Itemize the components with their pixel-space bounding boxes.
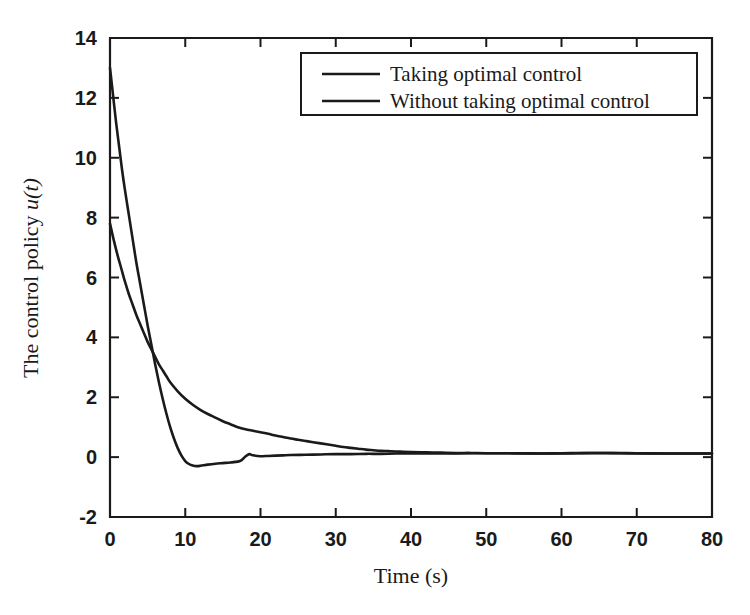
x-tick-label: 10 xyxy=(174,528,196,550)
x-tick-label: 40 xyxy=(400,528,422,550)
y-tick-label: 4 xyxy=(86,326,98,348)
y-tick-label: -2 xyxy=(79,506,97,528)
chart-figure: 01020304050607080 -202468101214 Time (s)… xyxy=(0,0,750,615)
y-axis-label-prefix: The control policy xyxy=(18,210,43,378)
x-tick-label: 20 xyxy=(249,528,271,550)
x-tick-label: 80 xyxy=(701,528,723,550)
x-tick-label: 30 xyxy=(325,528,347,550)
x-tick-label: 50 xyxy=(475,528,497,550)
y-tick-label: 2 xyxy=(86,386,97,408)
y-tick-label: 8 xyxy=(86,207,97,229)
y-tick-label: 12 xyxy=(75,87,97,109)
y-tick-label: 0 xyxy=(86,446,97,468)
legend-label-0: Taking optimal control xyxy=(390,62,582,86)
y-axis-label-math: u(t) xyxy=(18,178,43,210)
chart-legend: Taking optimal control Without taking op… xyxy=(301,53,697,115)
y-axis-label: The control policy u(t) xyxy=(18,178,43,378)
control-policy-line-chart: 01020304050607080 -202468101214 Time (s)… xyxy=(0,0,750,615)
x-tick-label: 60 xyxy=(550,528,572,550)
y-tick-label: 6 xyxy=(86,267,97,289)
x-axis-label: Time (s) xyxy=(374,563,448,588)
y-tick-label: 10 xyxy=(75,147,97,169)
x-tick-label: 70 xyxy=(626,528,648,550)
y-tick-label: 14 xyxy=(75,27,98,49)
legend-label-1: Without taking optimal control xyxy=(390,89,650,113)
x-tick-label: 0 xyxy=(104,528,115,550)
